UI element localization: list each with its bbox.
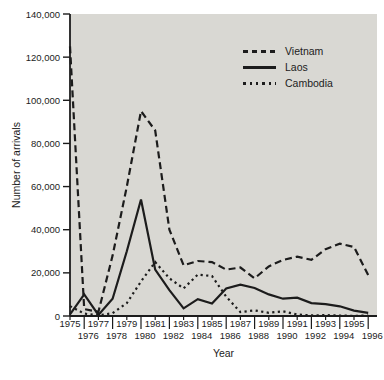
solid-line-swatch-icon	[243, 66, 276, 69]
x-axis-tick-label: 1987	[230, 318, 251, 329]
x-axis-tick-label: 1995	[343, 318, 364, 329]
y-axis-tick-label: 140,000	[26, 9, 60, 20]
legend-item-vietnam: Vietnam	[243, 43, 333, 59]
y-axis-tick-label: 60,000	[31, 181, 60, 192]
x-axis-tick-label: 1979	[116, 318, 137, 329]
x-axis-tick-label: 1984	[191, 330, 212, 341]
y-axis-tick-label: 80,000	[31, 138, 60, 149]
x-axis-tick-label: 1977	[88, 318, 109, 329]
x-axis-tick-label: 1975	[59, 318, 80, 329]
x-axis-tick-label: 1981	[145, 318, 166, 329]
legend-label-laos: Laos	[285, 61, 308, 73]
x-axis-tick-label: 1989	[258, 318, 279, 329]
legend-item-cambodia: Cambodia	[243, 75, 333, 91]
x-axis-tick-label: 1992	[305, 330, 326, 341]
x-axis-tick-label: 1985	[201, 318, 222, 329]
x-axis-tick-label: 1980	[134, 330, 155, 341]
legend-label-cambodia: Cambodia	[285, 77, 333, 89]
x-axis-tick-label: 1983	[173, 318, 194, 329]
y-axis-tick-label: 20,000	[31, 267, 60, 278]
x-axis-title: Year	[70, 347, 377, 359]
x-axis-tick-label: 1976	[78, 330, 99, 341]
x-axis-tick-label: 1991	[287, 318, 308, 329]
x-axis-tick-label: 1986	[220, 330, 241, 341]
refugee-arrivals-line-chart: 020,00040,00060,00080,000100,000120,0001…	[0, 0, 384, 380]
legend: Vietnam Laos Cambodia	[243, 43, 333, 91]
x-axis-tick-label: 1988	[248, 330, 269, 341]
legend-item-laos: Laos	[243, 59, 333, 75]
x-axis-tick-label: 1994	[333, 330, 354, 341]
x-axis-tick-label: 1996	[362, 330, 383, 341]
x-axis-tick-label: 1993	[315, 318, 336, 329]
dotted-line-swatch-icon	[243, 82, 276, 85]
dashed-line-swatch-icon	[243, 50, 276, 53]
y-axis-title: Number of arrivals	[10, 122, 22, 208]
x-axis-tick-label: 1978	[106, 330, 127, 341]
x-axis-tick-label: 1982	[163, 330, 184, 341]
x-axis-tick-label: 1990	[276, 330, 297, 341]
legend-label-vietnam: Vietnam	[285, 45, 323, 57]
y-axis-tick-label: 120,000	[26, 52, 60, 63]
y-axis-tick-label: 40,000	[31, 224, 60, 235]
y-axis-tick-label: 100,000	[26, 95, 60, 106]
